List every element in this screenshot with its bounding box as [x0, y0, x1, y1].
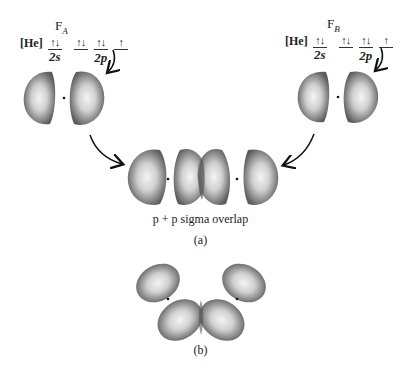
atom-a-label: FA	[55, 18, 68, 36]
atom-b-label: FB	[327, 16, 340, 34]
panel-b-label: (b)	[0, 343, 401, 358]
atom-a-p-orbital	[24, 71, 105, 124]
atom-b-p-orbital	[298, 71, 379, 122]
nucleus-b-dot	[337, 96, 340, 99]
sigma-overlap-orbitals	[128, 149, 278, 205]
overlap-caption: p + p sigma overlap	[0, 212, 401, 227]
panel-a-label: (a)	[0, 233, 401, 248]
bent-orbitals	[129, 256, 273, 349]
atom-a-config: [He] ↑↓ 2s ↑↓ ↑↓ ↑ 2p	[20, 36, 128, 66]
atom-b-config: [He] ↑↓ 2s ↑↓ ↑↓ ↑ 2p	[285, 34, 393, 64]
arrow-a-to-overlap	[90, 135, 122, 164]
arrow-b-to-overlap	[284, 134, 314, 165]
nucleus-a-dot	[63, 97, 66, 100]
